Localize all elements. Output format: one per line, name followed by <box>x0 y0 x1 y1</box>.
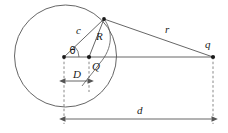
charge-q-dot <box>211 55 215 59</box>
label-d: d <box>137 104 143 116</box>
label-D: D <box>72 68 81 80</box>
segment-r-line <box>104 19 213 57</box>
label-c: c <box>76 24 81 36</box>
geometry-diagram: c θ R Q D r q d <box>0 0 228 133</box>
label-theta: θ <box>70 45 76 56</box>
label-R: R <box>95 30 103 42</box>
label-r: r <box>165 23 170 35</box>
label-q: q <box>205 38 211 50</box>
sphere-center-dot <box>62 55 66 59</box>
label-Q: Q <box>92 60 100 72</box>
figure-canvas: c θ R Q D r q d <box>0 0 228 133</box>
surface-point-dot <box>102 17 106 21</box>
charge-Q-dot <box>87 55 91 59</box>
